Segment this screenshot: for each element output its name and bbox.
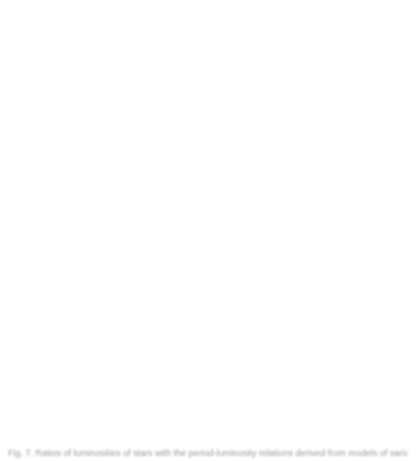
figure [0,0,417,461]
figure-caption: Fig. 7. Ratios of luminosities of stars … [8,448,408,458]
